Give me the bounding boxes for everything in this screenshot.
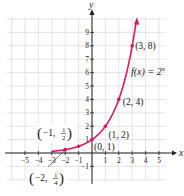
x-tick-label: −4 — [34, 156, 42, 165]
x-tick-label: −2 — [61, 156, 69, 165]
function-label: f(x) = 2x — [131, 65, 166, 78]
point-label: (1, 2) — [108, 130, 129, 141]
point-label: (3, 8) — [135, 41, 156, 52]
point-label: (2, 4) — [123, 97, 144, 108]
svg-text:(: ( — [37, 125, 42, 142]
y-tick-label: 8 — [85, 41, 89, 50]
x-tick-label: −5 — [21, 156, 29, 165]
x-axis-label: x — [178, 147, 184, 158]
svg-text:1: 1 — [54, 171, 58, 179]
x-tick-label: 1 — [104, 156, 108, 165]
svg-text:): ) — [59, 170, 64, 187]
point-label: (0, 1) — [94, 142, 115, 153]
y-tick-label: 3 — [85, 108, 89, 117]
point-label: (−1,12) — [36, 124, 76, 142]
svg-text:−1,: −1, — [43, 128, 55, 138]
svg-text:4: 4 — [54, 179, 58, 187]
exponential-chart: xy−5−4−3−2−112345−1123456789(3, 8)(2, 4)… — [0, 0, 184, 196]
x-tick-label: 5 — [157, 156, 161, 165]
y-tick-label: 9 — [85, 28, 89, 37]
y-tick-label: 4 — [85, 95, 89, 104]
svg-text:2: 2 — [62, 134, 66, 142]
data-point — [90, 138, 94, 142]
x-tick-label: 4 — [144, 156, 148, 165]
svg-text:(: ( — [29, 170, 34, 187]
point-label: (−2,14) — [28, 167, 68, 187]
y-axis-label: y — [88, 0, 94, 10]
labels: xy−5−4−3−2−112345−1123456789(3, 8)(2, 4)… — [21, 0, 184, 187]
y-tick-label: −1 — [81, 162, 89, 171]
data-point — [77, 145, 81, 149]
y-tick-label: 1 — [85, 135, 89, 144]
y-tick-label: 7 — [85, 55, 89, 64]
y-tick-label: 5 — [85, 82, 89, 91]
x-tick-label: 2 — [117, 156, 121, 165]
y-tick-label: 6 — [85, 68, 89, 77]
svg-text:): ) — [67, 125, 72, 142]
svg-text:1: 1 — [62, 126, 66, 134]
data-point — [104, 124, 108, 128]
data-point — [130, 44, 134, 48]
y-tick-label: 2 — [85, 122, 89, 131]
axes — [5, 9, 177, 184]
svg-text:−2,: −2, — [35, 173, 47, 183]
x-tick-label: 3 — [130, 156, 134, 165]
data-point — [117, 98, 121, 102]
